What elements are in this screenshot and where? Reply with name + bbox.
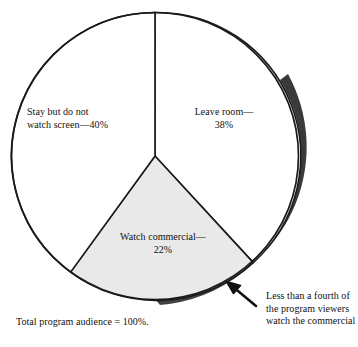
callout-arrow-icon xyxy=(227,282,257,307)
callout-annotation-text: Less than a fourth of the program viewer… xyxy=(266,290,358,328)
slice-label-watch-commercial: Watch commercial— 22% xyxy=(101,231,225,256)
slice-label-leave-room: Leave room— 38% xyxy=(178,106,270,131)
chart-caption: Total program audience = 100%. xyxy=(16,316,236,329)
slice-label-stay-but-do-not-watch: Stay but do not watch screen—40% xyxy=(27,106,139,131)
